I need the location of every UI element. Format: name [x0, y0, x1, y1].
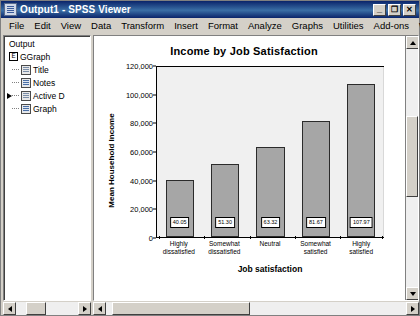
tree-node-title[interactable]: Title — [7, 63, 88, 76]
bar-somewhat-dissatisfied[interactable]: 51.30 — [211, 164, 239, 237]
window-controls: _ ❐ ✕ — [373, 4, 417, 16]
x-tick-label-neutral: Neutral — [247, 240, 293, 256]
bar-series: 40.05 51.30 — [157, 67, 384, 237]
outline-horizontal-scrollbar[interactable] — [3, 302, 91, 315]
output-node-icon: E — [9, 52, 18, 61]
bar-slot: 81.67 — [293, 67, 338, 237]
notes-node-icon — [21, 78, 31, 88]
x-tick-label-somewhat-satisfied: Somewhat satisfied — [293, 240, 339, 256]
menu-item-transform[interactable]: Transform — [116, 19, 169, 32]
menu-item-format[interactable]: Format — [203, 19, 243, 32]
tree-node-label: Graph — [33, 103, 57, 115]
bar-neutral[interactable]: 63.32 — [256, 147, 284, 237]
title-node-icon — [21, 65, 31, 75]
viewer-document-frame: Income by Job Satisfaction Mean Househol… — [93, 35, 419, 301]
menu-item-addons[interactable]: Add-ons — [369, 19, 414, 32]
menu-item-file[interactable]: File — [4, 19, 29, 32]
client-area: Output E GGraph Title Notes — [3, 35, 419, 315]
viewer-vscroll-thumb[interactable] — [406, 116, 418, 197]
viewer-pane: Income by Job Satisfaction Mean Househol… — [93, 35, 419, 315]
tree-node-active-dataset[interactable]: Active D — [7, 89, 88, 102]
y-tick-label: 100,000 — [126, 90, 156, 99]
tree-node-graph[interactable]: Graph — [7, 102, 88, 115]
x-axis-labels: Highly dissatisfied Somewhat dissatisfie… — [156, 240, 384, 256]
scroll-left-arrow[interactable] — [3, 302, 16, 315]
window-title: Output1 - SPSS Viewer — [20, 4, 370, 15]
viewer-scroll-track[interactable] — [106, 302, 406, 315]
spss-viewer-icon — [4, 3, 17, 16]
bar-slot: 51.30 — [202, 67, 247, 237]
y-tick-label: 120,000 — [126, 62, 156, 71]
menu-item-edit[interactable]: Edit — [29, 19, 55, 32]
tree-node-ggraph[interactable]: E GGraph — [7, 50, 88, 63]
bar-value-label: 51.30 — [215, 217, 235, 228]
maximize-button[interactable]: ❐ — [388, 4, 401, 16]
menu-item-utilities[interactable]: Utilities — [328, 19, 369, 32]
bar-value-label: 40.05 — [170, 217, 190, 228]
tree-node-notes[interactable]: Notes — [7, 76, 88, 89]
menu-item-window[interactable]: Window — [414, 19, 420, 32]
x-tick-label-highly-dissatisfied: Highly dissatisfied — [156, 240, 202, 256]
tree-node-label: Title — [33, 64, 49, 76]
bar-slot: 63.32 — [248, 67, 293, 237]
x-axis-title: Job satisfaction — [156, 264, 384, 274]
x-tick-label-highly-satisfied: Highly satisfied — [338, 240, 384, 256]
bar-somewhat-satisfied[interactable]: 81.67 — [302, 121, 330, 237]
tree-node-label: Notes — [33, 77, 55, 89]
outline-tree[interactable]: Output E GGraph Title Notes — [3, 35, 91, 301]
x-tick-label-somewhat-dissatisfied: Somewhat dissatisfied — [202, 240, 248, 256]
bar-highly-dissatisfied[interactable]: 40.05 — [166, 180, 194, 237]
viewer-vscroll-track[interactable] — [406, 49, 418, 287]
tree-connector — [12, 108, 19, 109]
scroll-left-arrow[interactable] — [93, 302, 106, 315]
selection-arrow-icon — [7, 93, 12, 99]
menu-bar: File Edit View Data Transform Insert For… — [1, 18, 419, 33]
menu-item-view[interactable]: View — [56, 19, 86, 32]
outline-scroll-thumb[interactable] — [26, 302, 46, 315]
close-button[interactable]: ✕ — [403, 4, 416, 16]
outline-pane: Output E GGraph Title Notes — [3, 35, 91, 315]
chart-title: Income by Job Satisfaction — [98, 45, 390, 57]
active-dataset-node-icon — [21, 91, 31, 101]
scroll-down-arrow[interactable] — [406, 287, 419, 300]
plot-wrapper: Mean Household Income 0 20,000 40,000 60… — [98, 64, 390, 290]
menu-item-data[interactable]: Data — [86, 19, 116, 32]
bar-slot: 107.97 — [339, 67, 384, 237]
tree-node-label: GGraph — [20, 51, 50, 63]
viewer-scroll-thumb[interactable] — [112, 302, 250, 315]
viewer-horizontal-scrollbar[interactable] — [93, 302, 419, 315]
income-by-job-satisfaction-chart[interactable]: Income by Job Satisfaction Mean Househol… — [98, 40, 390, 290]
bar-value-label: 63.32 — [261, 217, 281, 228]
menu-item-analyze[interactable]: Analyze — [243, 19, 287, 32]
bar-value-label: 107.97 — [350, 217, 373, 228]
viewer-vertical-scrollbar[interactable] — [405, 36, 418, 300]
bar-highly-satisfied[interactable]: 107.97 — [347, 84, 375, 237]
spss-viewer-window: Output1 - SPSS Viewer _ ❐ ✕ File Edit Vi… — [0, 0, 420, 316]
y-axis-title: Mean Household Income — [107, 101, 116, 221]
title-bar: Output1 - SPSS Viewer _ ❐ ✕ — [1, 1, 419, 18]
tree-connector — [12, 95, 19, 96]
tree-node-label: Active D — [33, 90, 65, 102]
scroll-up-arrow[interactable] — [406, 36, 419, 49]
tree-connector — [12, 82, 19, 83]
scroll-right-arrow[interactable] — [406, 302, 419, 315]
graph-node-icon — [21, 104, 31, 114]
tree-root-label[interactable]: Output — [7, 39, 88, 50]
menu-item-graphs[interactable]: Graphs — [287, 19, 328, 32]
plot-area: 40.05 51.30 — [156, 66, 384, 238]
tree-connector — [12, 69, 19, 70]
outline-scroll-track[interactable] — [16, 302, 78, 315]
bar-slot: 40.05 — [157, 67, 202, 237]
scroll-right-arrow[interactable] — [78, 302, 91, 315]
minimize-button[interactable]: _ — [373, 4, 386, 16]
menu-item-insert[interactable]: Insert — [169, 19, 203, 32]
viewer-document[interactable]: Income by Job Satisfaction Mean Househol… — [94, 36, 405, 300]
bar-value-label: 81.67 — [306, 217, 326, 228]
